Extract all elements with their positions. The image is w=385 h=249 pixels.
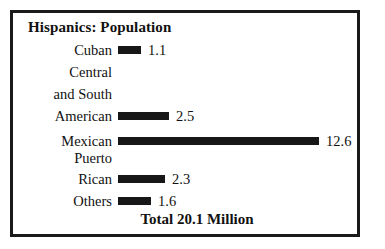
chart-frame: Hispanics: Population Cuban 1.1 Central … [10, 10, 360, 237]
bar-label-cuban: Cuban [0, 41, 112, 59]
bar-row-central-south-american: Central and South American 2.5 [13, 107, 357, 125]
bar-value-cuban: 1.1 [148, 41, 166, 59]
bar-row-mexican: Mexican 12.6 [13, 132, 357, 150]
bar-fill-others [118, 197, 151, 205]
bar-label-puerto: Puerto [0, 149, 112, 167]
bar-track-cuban [118, 46, 141, 54]
bar-label-rican: Rican [0, 170, 112, 188]
bar-fill-mexican [118, 137, 319, 145]
chart-total-label: Total 20.1 Million [13, 211, 357, 228]
bar-track-others [118, 197, 151, 205]
bar-fill-cuban [118, 46, 141, 54]
bar-label-american: American [0, 107, 112, 125]
bar-value-puerto-rican: 2.3 [172, 170, 190, 188]
bar-track-mexican [118, 137, 319, 145]
chart-plot-area: Hispanics: Population Cuban 1.1 Central … [13, 13, 357, 234]
bar-label-others: Others [0, 192, 112, 210]
bar-row-puerto-rican: Puerto Rican 2.3 [13, 170, 357, 188]
bar-label-and-south: and South [0, 85, 112, 103]
bar-value-central-south-american: 2.5 [176, 107, 194, 125]
bar-row-cuban: Cuban 1.1 [13, 41, 357, 59]
bar-value-mexican: 12.6 [326, 132, 351, 150]
bar-label-mexican: Mexican [0, 132, 112, 150]
bar-track-puerto-rican [118, 175, 165, 183]
bar-fill-puerto-rican [118, 175, 165, 183]
bar-value-others: 1.6 [158, 192, 176, 210]
bar-label-central: Central [0, 63, 112, 81]
chart-title: Hispanics: Population [28, 19, 171, 36]
bar-row-others: Others 1.6 [13, 192, 357, 210]
bar-fill-central-south-american [118, 112, 169, 120]
bar-track-central-south-american [118, 112, 169, 120]
